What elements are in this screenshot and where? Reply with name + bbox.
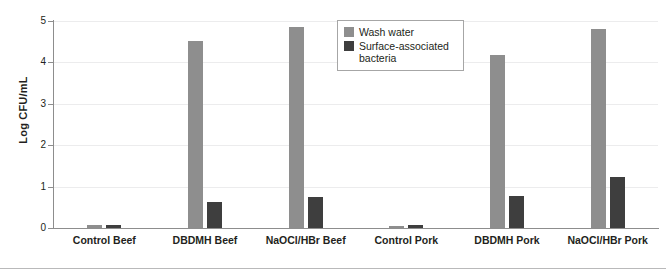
legend-item: Surface-associated bacteria [344, 40, 455, 64]
y-tick-mark [48, 228, 53, 229]
y-tick-label: 0 [26, 223, 46, 233]
bar-chart-figure: Log CFU/mL 012345Control BeefDBDMH BeefN… [0, 0, 666, 275]
y-tick-mark [48, 62, 53, 63]
y-tick-mark [48, 145, 53, 146]
bar-surface-bacteria [509, 196, 524, 228]
bar-surface-bacteria [610, 177, 625, 228]
gridline [54, 145, 658, 146]
bar-wash-water [289, 27, 304, 228]
y-tick-mark [48, 104, 53, 105]
bar-wash-water [188, 41, 203, 228]
y-tick-label: 1 [26, 182, 46, 192]
y-tick-mark [48, 21, 53, 22]
y-tick-mark [48, 187, 53, 188]
footer-rule [0, 268, 666, 269]
legend-label: Wash water [359, 26, 414, 38]
y-axis-line [53, 20, 54, 229]
legend-label: Surface-associated bacteria [359, 40, 455, 64]
x-axis-line [53, 228, 659, 229]
y-tick-label: 4 [26, 57, 46, 67]
bar-surface-bacteria [308, 197, 323, 228]
bar-surface-bacteria [207, 202, 222, 228]
gridline [54, 104, 658, 105]
bar-wash-water [591, 29, 606, 228]
y-tick-label: 3 [26, 99, 46, 109]
legend-swatch-icon [344, 27, 354, 37]
legend-swatch-icon [344, 41, 354, 51]
y-tick-label: 5 [26, 16, 46, 26]
chart-legend: Wash waterSurface-associated bacteria [337, 20, 464, 71]
bar-wash-water [490, 55, 505, 228]
gridline [54, 187, 658, 188]
x-tick-label: NaOCl/HBr Pork [538, 234, 666, 246]
y-tick-label: 2 [26, 140, 46, 150]
legend-item: Wash water [344, 26, 455, 38]
